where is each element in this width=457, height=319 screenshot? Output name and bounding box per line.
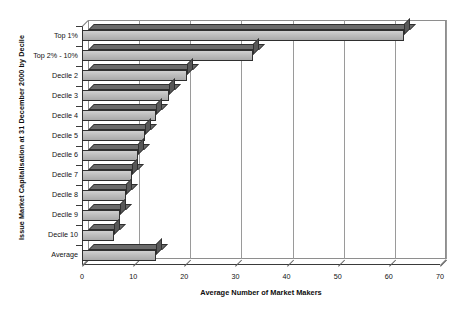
bar-front-face <box>82 30 404 41</box>
x-axis-tick-label: 10 <box>121 272 145 281</box>
bar-side-face <box>156 238 162 255</box>
bar-front-face <box>82 50 253 61</box>
x-axis-tick-label: 50 <box>326 272 350 281</box>
bar-front-face <box>82 110 156 121</box>
y-axis-tick-label: Top 1% <box>4 31 78 40</box>
x-axis-tick-label: 30 <box>223 272 247 281</box>
bar-front-face <box>82 170 132 181</box>
y-axis-tick-label: Decile 5 <box>4 131 78 140</box>
x-axis-tick-label: 60 <box>377 272 401 281</box>
x-axis-tick-label: 40 <box>275 272 299 281</box>
bar-front-face <box>82 210 120 221</box>
bar <box>82 130 145 141</box>
y-axis-tick-label: Decile 9 <box>4 210 78 219</box>
y-axis-tick-labels: Top 1%Top 2% - 10%Decile 2Decile 3Decile… <box>0 0 78 319</box>
y-axis-tick-label: Decile 3 <box>4 91 78 100</box>
x-axis-tick-label: 20 <box>172 272 196 281</box>
bar <box>82 90 169 101</box>
bar <box>82 250 156 261</box>
bar <box>82 70 187 81</box>
bar-front-face <box>82 250 156 261</box>
bar-front-face <box>82 150 138 161</box>
bar <box>82 190 126 201</box>
bar <box>82 30 404 41</box>
x-axis-tick-label: 70 <box>428 272 452 281</box>
bar <box>82 170 132 181</box>
bar <box>82 50 253 61</box>
y-axis-tick-label: Top 2% - 10% <box>4 51 78 60</box>
bar-front-face <box>82 190 126 201</box>
bar-side-face <box>253 38 259 55</box>
bar <box>82 150 138 161</box>
y-axis-tick-label: Decile 8 <box>4 190 78 199</box>
bar-side-face <box>404 18 410 35</box>
x-axis-tick-label: 0 <box>70 272 94 281</box>
bar-front-face <box>82 130 145 141</box>
bar <box>82 110 156 121</box>
y-axis-tick-label: Average <box>4 250 78 259</box>
bar-chart: Issue Market Capitalisation at 31 Decemb… <box>0 0 457 319</box>
y-axis-tick-label: Decile 10 <box>4 230 78 239</box>
y-axis-tick-label: Decile 2 <box>4 71 78 80</box>
y-axis-tick-label: Decile 4 <box>4 111 78 120</box>
y-axis-tick-label: Decile 6 <box>4 150 78 159</box>
bar <box>82 210 120 221</box>
y-axis-tick-label: Decile 7 <box>4 170 78 179</box>
bar-front-face <box>82 230 114 241</box>
bar <box>82 230 114 241</box>
x-axis-title: Average Number of Market Makers <box>82 288 440 297</box>
bar-front-face <box>82 90 169 101</box>
bar-front-face <box>82 70 187 81</box>
